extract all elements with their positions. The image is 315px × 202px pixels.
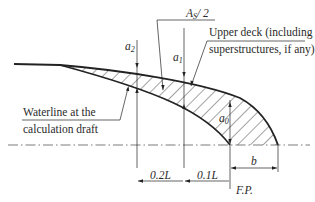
area-label: AS/ 2 (186, 8, 209, 21)
upper-deck-label-2: superstructures, if any) (209, 44, 315, 56)
waterline-label-1: Waterline at the (23, 107, 96, 119)
dim-01L-label: 0.1L (197, 170, 218, 182)
a2-label: a2 (125, 41, 135, 54)
waterline-label-2: calculation draft (23, 124, 98, 136)
dim-b-label: b (251, 156, 257, 168)
a1-label: a1 (173, 52, 183, 65)
a0-label: a0 (219, 113, 229, 126)
upper-deck-label-1: Upper deck (including (209, 27, 312, 39)
fp-label: F.P. (236, 185, 253, 197)
dim-02L-label: 0.2L (150, 170, 171, 182)
